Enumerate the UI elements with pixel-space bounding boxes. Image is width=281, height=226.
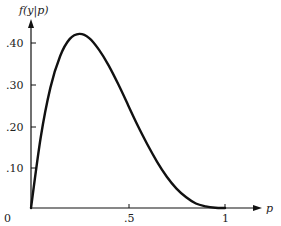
- y-axis-arrow-icon: [28, 19, 34, 28]
- y-tick-label-20: .20: [6, 121, 24, 134]
- chart-container: f(y|p) p .40 .30 .20 .10 0 .5 1: [0, 0, 281, 226]
- x-axis-label: p: [266, 202, 273, 215]
- y-tick-label-30: .30: [6, 79, 24, 92]
- y-axis-label: f(y|p): [18, 4, 49, 18]
- density-curve: [31, 34, 225, 208]
- x-axis-arrow-icon: [253, 205, 262, 211]
- origin-label: 0: [4, 212, 11, 225]
- x-tick-label-one: 1: [222, 212, 229, 225]
- y-tick-label-10: .10: [6, 162, 24, 175]
- x-tick-label-half: .5: [124, 212, 135, 225]
- chart-svg: f(y|p) p .40 .30 .20 .10 0 .5 1: [0, 0, 281, 226]
- y-tick-label-40: .40: [6, 37, 24, 50]
